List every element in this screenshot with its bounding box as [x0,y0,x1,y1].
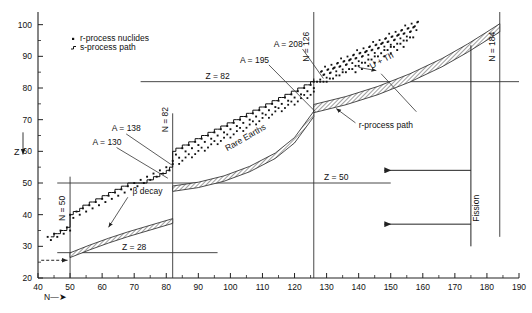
legend-label-s-process: s-process path [80,42,136,52]
r-process-nuclide-dot [79,214,81,216]
r-process-nuclide-dot [417,21,419,23]
r-process-nuclide-dot [82,207,84,209]
r-process-nuclide-dot [265,106,267,108]
r-process-nuclide-dot [398,34,400,36]
r-process-nuclide-dot [345,71,347,73]
r-process-nuclide-dot [252,112,254,114]
r-process-nuclide-dot [278,107,280,109]
r-process-nuclide-dot [72,217,74,219]
r-process-nuclide-dot [340,58,342,60]
r-process-nuclide-dot [101,198,103,200]
r-process-nuclide-dot [416,29,418,31]
r-process-nuclide-dot [217,135,219,137]
r-process-nuclide-dot [281,110,283,112]
r-process-nuclide-dot [334,67,336,69]
svg-text:50: 50 [23,178,33,188]
r-process-nuclide-dot [378,47,380,49]
svg-text:20: 20 [23,273,33,283]
svg-text:70: 70 [129,282,139,292]
r-process-nuclide-dot [284,107,286,109]
svg-text:90: 90 [194,282,204,292]
r-process-nuclide-dot [375,44,377,46]
r-process-nuclide-dot [414,25,416,27]
r-process-nuclide-dot [412,36,414,38]
r-process-nuclide-dot [362,55,364,57]
r-process-nuclide-dot [353,54,355,56]
r-process-nuclide-dot [197,144,199,146]
r-process-nuclide-dot [300,93,302,95]
svg-text:90: 90 [23,51,33,61]
r-process-nuclide-dot [350,58,352,60]
r-process-nuclide-dot [326,81,328,83]
r-process-nuclide-dot [385,37,387,39]
r-process-nuclide-dot [120,188,122,190]
r-process-nuclide-dot [220,128,222,130]
svg-text:80: 80 [162,282,172,292]
r-process-nuclide-dot [297,101,299,103]
r-process-nuclide-dot [303,94,305,96]
r-process-nuclide-dot [358,65,360,67]
r-process-nuclide-dot [297,90,299,92]
r-process-nuclide-dot [76,211,78,213]
r-process-nuclide-dot [92,207,94,209]
r-process-nuclide-dot [394,39,396,41]
r-process-nuclide-dot [226,134,228,136]
r-process-nuclide-dot [236,125,238,127]
r-process-nuclide-dot [262,112,264,114]
r-process-nuclide-dot [255,116,257,118]
svg-text:140: 140 [352,282,366,292]
r-process-nuclide-dot [346,63,348,65]
r-process-nuclide-dot [111,198,113,200]
r-process-nuclide-dot [236,130,238,132]
svg-text:170: 170 [448,282,462,292]
r-process-nuclide-dot [313,91,315,93]
annotation-r-process-path: r-process path [359,120,414,130]
r-process-nuclide-dot [230,137,232,139]
svg-text:150: 150 [384,282,398,292]
r-process-nuclide-dot [239,119,241,121]
r-process-nuclide-dot [399,43,401,45]
r-process-nuclide-dot [242,122,244,124]
r-process-nuclide-dot [371,49,373,51]
r-process-nuclide-dot [204,141,206,143]
r-process-nuclide-dot [278,100,280,102]
r-process-nuclide-dot [335,70,337,72]
r-process-nuclide-dot [214,140,216,142]
r-process-nuclide-dot [284,97,286,99]
r-process-nuclide-dot [294,104,296,106]
svg-text:110: 110 [256,282,270,292]
r-process-nuclide-dot [124,192,126,194]
r-process-nuclide-dot [324,66,326,68]
r-process-nuclide-dot [169,169,171,171]
r-process-nuclide-dot [69,214,71,216]
r-process-nuclide-dot [63,233,65,235]
r-process-nuclide-dot [210,143,212,145]
r-process-nuclide-dot [246,116,248,118]
r-process-nuclide-dot [239,127,241,129]
r-process-nuclide-dot [374,52,376,54]
r-process-nuclide-dot [390,46,392,48]
r-process-nuclide-dot [191,147,193,149]
r-process-nuclide-dot [271,103,273,105]
r-process-nuclide-dot [303,87,305,89]
r-process-nuclide-dot [369,46,371,48]
r-process-nuclide-dot [207,147,209,149]
r-process-nuclide-dot [327,68,329,70]
svg-text:160: 160 [416,282,430,292]
r-process-nuclide-dot [396,49,398,51]
r-process-nuclide-dot [329,78,331,80]
r-process-nuclide-dot [265,114,267,116]
r-process-nuclide-dot [223,137,225,139]
r-process-nuclide-dot [313,81,315,83]
r-process-nuclide-dot [409,36,411,38]
r-process-nuclide-dot [149,179,151,181]
r-process-nuclide-dot [140,179,142,181]
annotation-a138: A = 138 [112,123,141,133]
r-process-nuclide-dot [367,54,369,56]
r-process-nuclide-dot [185,150,187,152]
r-process-nuclide-dot [258,120,260,122]
r-process-nuclide-dot [175,154,177,156]
r-process-nuclide-dot [335,74,337,76]
annotation-beta-decay: β decay [133,186,164,196]
r-process-nuclide-dot [249,124,251,126]
